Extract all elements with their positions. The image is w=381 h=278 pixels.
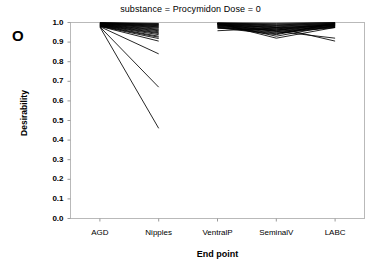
x-axis-title: End point <box>70 249 365 259</box>
x-tick-label-seminalv: SeminalV <box>246 228 306 237</box>
y-tick-label: 0.5 <box>38 116 64 125</box>
y-tick-label: 0.0 <box>38 214 64 223</box>
y-tick-label: 1.0 <box>38 18 64 27</box>
y-tick-label: 0.7 <box>38 76 64 85</box>
y-axis-title: Desirability <box>19 68 29 158</box>
x-tick-label-labc: LABC <box>305 228 365 237</box>
x-tick-label-agd: AGD <box>70 228 130 237</box>
y-tick-label: 0.4 <box>38 135 64 144</box>
y-tick-label: 0.3 <box>38 155 64 164</box>
y-tick-label: 0.9 <box>38 37 64 46</box>
figure-panel: substance = Procymidon Dose = 0 O 0.00.1… <box>0 0 381 278</box>
y-tick-label: 0.2 <box>38 174 64 183</box>
x-tick-label-nipples: Nipples <box>129 228 189 237</box>
x-tick-label-ventralp: VentralP <box>188 228 248 237</box>
y-tick-label: 0.6 <box>38 96 64 105</box>
y-tick-label: 0.1 <box>38 194 64 203</box>
y-tick-label: 0.8 <box>38 57 64 66</box>
